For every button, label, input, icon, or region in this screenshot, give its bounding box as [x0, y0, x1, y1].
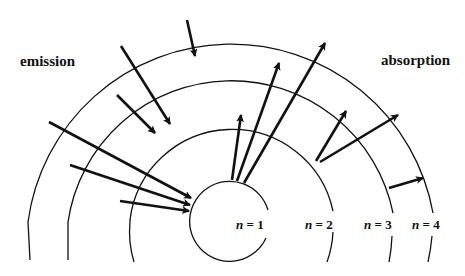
orbit-n3: [68, 81, 393, 262]
level-label-n1: n = 1: [236, 217, 264, 232]
bohr-model-diagram: emission absorption n = 1 n = 2 n = 3 n …: [0, 0, 465, 276]
absorption-label: absorption: [381, 52, 451, 68]
level-label-n3: n = 3: [364, 217, 392, 232]
emission-arrows: [49, 20, 195, 211]
emission-label: emission: [20, 53, 76, 69]
level-label-n4: n = 4: [412, 217, 440, 232]
level-label-n2: n = 2: [305, 217, 333, 232]
